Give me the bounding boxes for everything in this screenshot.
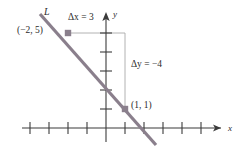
delta-y-label: Δy = −4: [131, 60, 162, 70]
y-axis-label: y: [113, 10, 117, 19]
line-L: [40, 14, 156, 145]
x-axis-label: x: [228, 124, 232, 133]
delta-x-label: Δx = 3: [68, 13, 94, 23]
point-label-1-1: (1, 1): [131, 101, 152, 111]
point-marker-minus2-5: [65, 30, 71, 36]
delta-guide-lines: [68, 33, 125, 109]
y-axis: [100, 12, 112, 142]
x-axis: [22, 122, 221, 134]
graph-figure: L (−2, 5) Δx = 3 Δy = −4 (1, 1) y x: [0, 0, 243, 155]
line-name-label: L: [44, 7, 50, 17]
coordinate-plane-svg: [0, 0, 243, 155]
point-label-minus2-5: (−2, 5): [17, 26, 43, 36]
point-marker-1-1: [122, 106, 128, 112]
